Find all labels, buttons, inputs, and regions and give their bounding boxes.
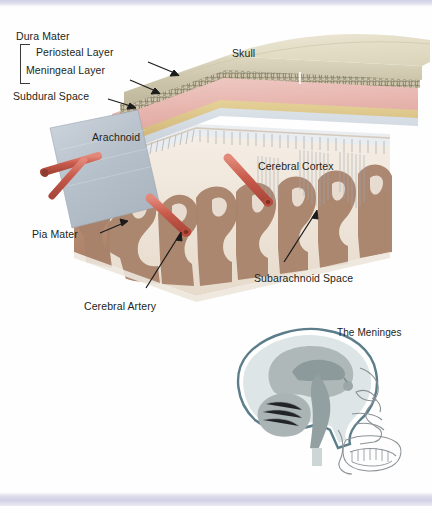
bottom-color-band [0,492,432,506]
label-periosteal-layer: Periosteal Layer [36,46,113,58]
inset-spinal-cord [312,448,322,466]
label-arachnoid: Arachnoid [92,131,140,143]
inset-pituitary [343,381,353,391]
label-subarachnoid-space: Subarachnoid Space [254,272,353,284]
label-meningeal-layer: Meningeal Layer [26,64,105,76]
inset-head-diagram [238,329,401,474]
label-subdural-space: Subdural Space [13,90,89,102]
label-inset-title: The Meninges [337,327,402,338]
label-skull: Skull [232,47,255,59]
leader-periosteal [148,62,179,76]
label-cerebral-cortex: Cerebral Cortex [258,160,334,172]
label-pia-mater: Pia Mater [32,228,78,240]
figure-canvas: Dura Mater Periosteal Layer Meningeal La… [0,0,432,513]
label-cerebral-artery: Cerebral Artery [84,300,156,312]
meninges-cutaway-illustration [0,0,432,513]
label-dura-mater: Dura Mater [16,30,70,42]
